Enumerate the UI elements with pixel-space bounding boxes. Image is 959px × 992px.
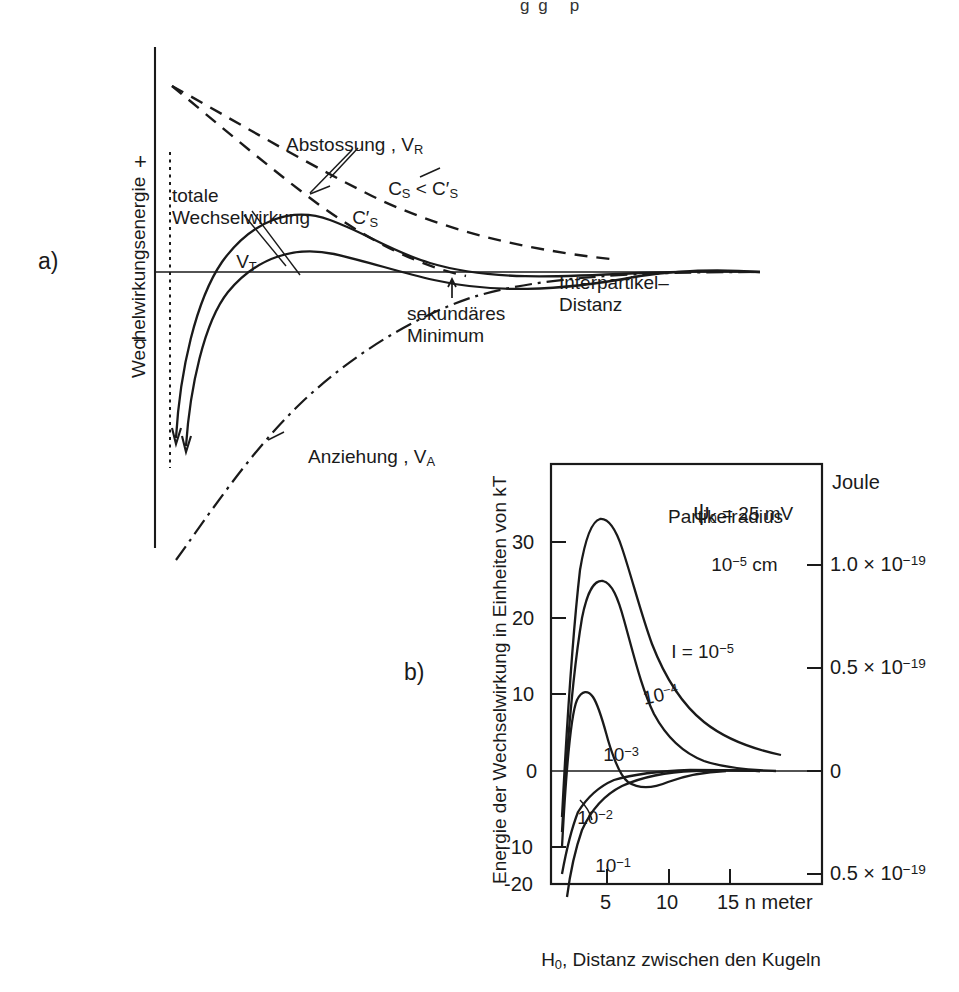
leader-secondary-minimum — [448, 279, 456, 298]
label-anziehung-sub: A — [426, 454, 435, 469]
panel-a-plus-sign: + — [134, 150, 147, 175]
cs-mid: < C — [410, 178, 445, 199]
label-cs-comparison: CS < C′S — [367, 157, 458, 223]
cs-sub-2: S — [449, 186, 458, 201]
label-secondary-min-line2: Minimum — [407, 325, 484, 346]
curve-label-1e-3-exp: −3 — [624, 744, 639, 759]
curve-label-1e-3-prefix: 10 — [603, 744, 624, 765]
label-totale-line1: totale — [172, 185, 218, 206]
panel-b-ylabel-30: 30 — [512, 531, 534, 553]
label-abstossung-text: Abstossung , V — [286, 134, 414, 155]
radius-exp: −5 — [732, 554, 747, 569]
panel-b-y2label-0: 0 — [830, 760, 841, 782]
radius-mantissa: 10 — [711, 554, 732, 575]
label-abstossung-sub: R — [414, 142, 423, 157]
curve-label-1e-5-exp: −5 — [719, 641, 734, 656]
panel-b-xlabel-15: 15 n meter — [717, 891, 813, 913]
curve-label-1e-3: 10−3 — [582, 723, 639, 787]
cs-text: C — [388, 178, 402, 199]
panel-a-minus-sign: – — [134, 327, 146, 352]
panel-b-tag: b) — [404, 660, 424, 686]
label-totale-line2: Wechselwirkung — [172, 207, 310, 228]
curve-label-1e-2-exp: −2 — [598, 807, 613, 822]
panel-b-y-axis-title: Energie der Wechselwirkung in Einheiten … — [489, 476, 510, 884]
panel-b-ylabel-10: 10 — [512, 683, 534, 705]
radius-unit: cm — [747, 554, 778, 575]
label-vt-text: V — [236, 251, 249, 272]
panel-b-ylabel-20: 20 — [512, 607, 534, 629]
curve-label-1e-1: 10−1 — [574, 834, 631, 898]
curve-label-1e-5-prefix: I = 10 — [671, 641, 719, 662]
panel-b-x-title-main: H — [541, 949, 555, 970]
curve-label-1e-1-exp: −1 — [616, 855, 631, 870]
annotation-radius-label: Partikelradius — [668, 506, 783, 527]
panel-a-tag: a) — [38, 249, 58, 275]
label-anziehung-text: Anziehung , V — [308, 446, 426, 467]
panel-b-x-title-rest: , Distanz zwischen den Kugeln — [562, 949, 821, 970]
curve-label-1e-4-exp: −4 — [662, 681, 680, 699]
panel-b-y2label-0p5a: 0.5 × 10−19 — [830, 656, 926, 678]
cs-prime-sub: S — [369, 215, 378, 230]
panel-b-y2label-1p0: 1.0 × 10−19 — [830, 553, 926, 575]
panel-a-x-label-line1: Interpartikel– — [559, 272, 669, 293]
panel-b-ylabel-0: 0 — [526, 760, 537, 782]
annotation-radius-value: 10−5 cm — [690, 533, 778, 597]
curve-vt-cs-prime — [186, 251, 760, 446]
label-vt: VT — [215, 230, 257, 296]
panel-b-x-unit: n meter — [745, 891, 813, 913]
panel-b-y2label-0p5b: 0.5 × 10−19 — [830, 862, 926, 884]
panel-b-x-axis-title: H0, Distanz zwischen den Kugeln — [520, 928, 821, 992]
panel-b-ylabel-m20: -20 — [504, 873, 533, 895]
label-anziehung: Anziehung , VA — [288, 425, 435, 491]
figure-root: g g p — [0, 0, 959, 992]
label-secondary-min-line1: sekundäres — [407, 303, 505, 324]
curve-label-1e-2-prefix: 10 — [577, 807, 598, 828]
panel-b-ylabel-m10: -10 — [504, 836, 533, 858]
cs-prime-text: C′ — [352, 207, 369, 228]
label-cs-prime: C′S — [331, 186, 378, 252]
label-vt-sub: T — [249, 259, 257, 274]
panel-a-x-label-line2: Distanz — [559, 294, 622, 315]
panel-b-xlabel-10: 10 — [656, 891, 678, 913]
curve-label-1e-1-prefix: 10 — [595, 855, 616, 876]
leader-va — [268, 432, 284, 440]
panel-b-right-unit: Joule — [832, 471, 880, 493]
panel-b-x-title-sub: 0 — [555, 957, 562, 972]
